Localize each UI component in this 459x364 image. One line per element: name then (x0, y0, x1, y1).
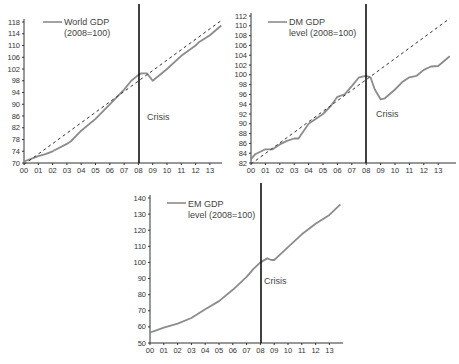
x-tick-label: 04 (201, 346, 209, 355)
y-tick-label: 86 (12, 112, 20, 121)
y-tick-label: 110 (235, 21, 247, 30)
y-tick-label: 100 (234, 70, 247, 79)
x-tick-label: 12 (420, 166, 428, 175)
y-tick-label: 106 (7, 53, 20, 62)
x-tick-label: 10 (391, 166, 399, 175)
y-tick-label: 110 (8, 41, 20, 50)
x-tick-label: 03 (63, 166, 71, 175)
trend-line (24, 21, 221, 165)
x-tick-label: 00 (20, 166, 28, 175)
y-tick-label: 100 (133, 258, 146, 267)
y-tick-label: 102 (7, 65, 20, 74)
x-tick-label: 06 (333, 166, 341, 175)
y-tick-label: 70 (12, 159, 20, 168)
x-tick-label: 02 (48, 166, 56, 175)
legend-line-1: EM GDP (188, 199, 224, 209)
gdp-series-line (24, 26, 221, 162)
y-tick-label: 86 (239, 139, 247, 148)
y-tick-label: 106 (234, 41, 247, 50)
y-tick-label: 92 (239, 110, 247, 119)
y-tick-label: 94 (12, 88, 20, 97)
gdp-series-line (251, 56, 450, 159)
em-gdp-legend: EM GDP level (2008=100) (167, 199, 255, 220)
y-tick-label: 108 (234, 31, 247, 40)
y-tick-label: 84 (239, 149, 247, 158)
y-tick-label: 90 (12, 100, 20, 109)
y-tick-label: 80 (138, 290, 146, 299)
y-tick-label: 70 (138, 306, 146, 315)
x-tick-label: 06 (229, 346, 237, 355)
crisis-label: Crisis (147, 112, 170, 122)
x-tick-label: 05 (215, 346, 223, 355)
y-tick-label: 140 (133, 194, 146, 203)
x-tick-label: 00 (146, 346, 154, 355)
y-tick-label: 78 (12, 135, 20, 144)
x-tick-label: 11 (177, 166, 185, 175)
x-tick-label: 04 (77, 166, 85, 175)
y-tick-label: 104 (234, 51, 247, 60)
y-tick-label: 98 (239, 80, 247, 89)
x-tick-label: 07 (242, 346, 250, 355)
x-tick-label: 03 (187, 346, 195, 355)
x-tick-label: 11 (298, 346, 306, 355)
trend-line (251, 19, 450, 165)
y-tick-label: 90 (239, 119, 247, 128)
y-tick-label: 74 (12, 147, 20, 156)
x-tick-label: 02 (173, 346, 181, 355)
x-tick-label: 09 (376, 166, 384, 175)
x-tick-label: 02 (276, 166, 284, 175)
x-tick-label: 11 (406, 166, 414, 175)
dm-gdp-legend: DM GDP level (2008=100) (268, 17, 356, 38)
x-tick-label: 13 (325, 346, 333, 355)
legend-line-1: DM GDP (289, 17, 325, 27)
x-tick-label: 04 (304, 166, 312, 175)
x-tick-label: 13 (206, 166, 214, 175)
x-tick-label: 00 (247, 166, 255, 175)
y-tick-label: 98 (12, 76, 20, 85)
world-gdp-legend: World GDP (2008=100) (43, 17, 110, 38)
x-tick-label: 12 (311, 346, 319, 355)
world-gdp-chart: 7074788286909498102106110114118000102030… (7, 4, 222, 175)
gdp-series-line (150, 204, 340, 332)
x-tick-label: 08 (134, 166, 142, 175)
legend-line-1: World GDP (64, 17, 109, 27)
x-tick-label: 09 (270, 346, 278, 355)
y-tick-label: 50 (138, 339, 146, 348)
x-tick-label: 08 (256, 346, 264, 355)
y-tick-label: 60 (138, 322, 146, 331)
x-tick-label: 12 (191, 166, 199, 175)
x-tick-label: 13 (434, 166, 442, 175)
y-tick-label: 120 (133, 226, 146, 235)
y-tick-label: 90 (138, 274, 146, 283)
y-tick-label: 94 (239, 100, 247, 109)
x-tick-label: 01 (261, 166, 269, 175)
y-tick-label: 130 (133, 210, 146, 219)
x-tick-label: 09 (149, 166, 157, 175)
y-tick-label: 88 (239, 129, 247, 138)
y-tick-label: 110 (134, 242, 146, 251)
legend-line-2: level (2008=100) (289, 28, 356, 38)
y-tick-label: 118 (8, 18, 20, 27)
legend-line-2: (2008=100) (64, 28, 110, 38)
x-tick-label: 01 (160, 346, 168, 355)
gdp-charts-canvas: 7074788286909498102106110114118000102030… (0, 0, 459, 364)
x-tick-label: 08 (362, 166, 370, 175)
x-tick-label: 10 (163, 166, 171, 175)
x-tick-label: 06 (106, 166, 114, 175)
x-tick-label: 05 (319, 166, 327, 175)
y-tick-label: 112 (235, 12, 247, 21)
x-tick-label: 03 (290, 166, 298, 175)
crisis-label: Crisis (264, 276, 287, 286)
x-tick-label: 05 (91, 166, 99, 175)
y-tick-label: 114 (8, 29, 20, 38)
y-tick-label: 96 (239, 90, 247, 99)
y-tick-label: 82 (12, 123, 20, 132)
em-gdp-chart: 5060708090100110120130140000102030405060… (133, 183, 343, 355)
x-tick-label: 10 (284, 346, 292, 355)
crisis-label: Crisis (376, 109, 399, 119)
y-tick-label: 102 (234, 61, 247, 70)
x-tick-label: 01 (34, 166, 42, 175)
y-tick-label: 82 (239, 159, 247, 168)
x-tick-label: 07 (120, 166, 128, 175)
legend-line-2: level (2008=100) (188, 210, 255, 220)
